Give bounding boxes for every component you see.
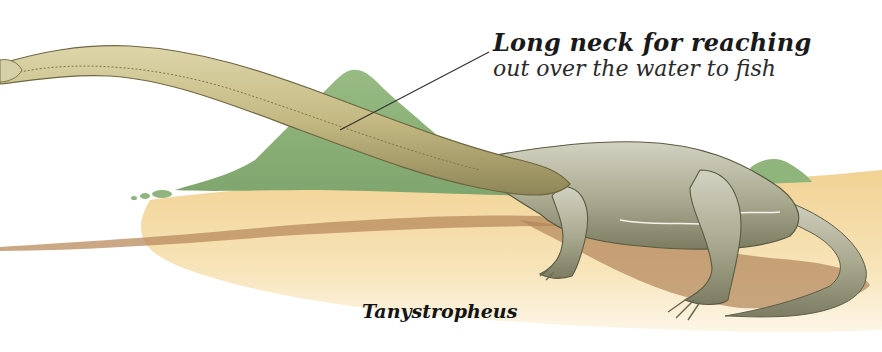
callout-title: Long neck for reaching xyxy=(493,30,811,56)
callout-description: out over the water to fish xyxy=(493,56,811,82)
illustration-canvas: Long neck for reaching out over the wate… xyxy=(0,0,882,352)
neck-callout: Long neck for reaching out over the wate… xyxy=(493,30,811,82)
species-label: Tanystropheus xyxy=(362,300,517,322)
